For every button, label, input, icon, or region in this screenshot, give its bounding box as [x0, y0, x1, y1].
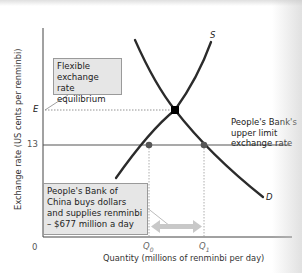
- supply-curve-label: S: [210, 30, 215, 40]
- demand-curve-label: D: [266, 192, 273, 202]
- supply-point-at-13: [146, 142, 153, 149]
- origin-label: 0: [32, 242, 37, 252]
- x-tick-q0: Q0: [143, 241, 154, 253]
- y-axis-label: Exchange rate (US cents per renminbi): [13, 50, 23, 210]
- excess-supply-double-arrow: [151, 220, 202, 233]
- intervention-callout: People's Bank of China buys dollars and …: [43, 183, 148, 235]
- equilibrium-point: [171, 106, 179, 114]
- upper-limit-note-line-3: exchange rate: [231, 138, 297, 149]
- upper-limit-note-line-2: upper limit: [231, 128, 297, 139]
- y-tick-13: 13: [27, 139, 38, 149]
- demand-point-at-13: [201, 142, 208, 149]
- y-tick-e: E: [33, 104, 38, 114]
- x-tick-q1: Q1: [199, 241, 210, 253]
- equilibrium-callout: Flexible exchange rate equilibrium: [53, 58, 122, 95]
- upper-limit-note-line-1: People's Bank's: [231, 117, 297, 128]
- x-axis-label: Quantity (millions of renminbi per day): [103, 253, 264, 263]
- upper-limit-note: People's Bank's upper limit exchange rat…: [231, 117, 297, 149]
